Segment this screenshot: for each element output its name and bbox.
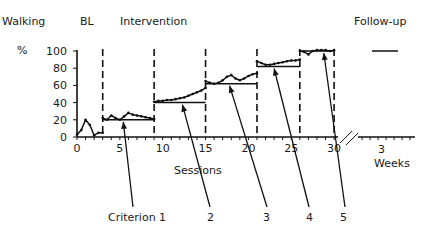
arrowhead-icon	[229, 86, 235, 94]
x-tick-label: 30	[327, 142, 341, 155]
data-point	[256, 72, 259, 75]
data-point	[260, 62, 263, 65]
data-point	[131, 113, 134, 116]
data-point	[174, 98, 177, 101]
data-point	[226, 76, 229, 79]
data-point	[251, 73, 254, 76]
data-point	[273, 63, 276, 66]
y-tick-label: 0	[60, 131, 67, 144]
data-point	[149, 117, 152, 120]
y-tick-label: 40	[53, 97, 67, 110]
data-point	[153, 118, 156, 121]
data-point	[303, 51, 306, 54]
y-tick-label: 80	[53, 62, 67, 75]
data-point	[187, 94, 190, 97]
x-tick-label: 5	[116, 142, 123, 155]
data-point	[97, 131, 100, 134]
data-point	[221, 79, 224, 82]
data-point	[329, 50, 332, 53]
arrowhead-icon	[121, 122, 127, 129]
data-point	[213, 82, 216, 85]
criterion-arrow	[230, 86, 267, 207]
data-point	[114, 117, 117, 120]
data-point	[200, 89, 203, 92]
x-tick-label: 10	[156, 142, 170, 155]
data-point	[290, 59, 293, 62]
data-point	[204, 80, 207, 83]
criterion-arrow	[123, 122, 133, 207]
data-series	[154, 88, 205, 102]
data-point	[230, 74, 233, 77]
data-point	[277, 62, 280, 65]
data-point	[204, 87, 207, 90]
y-tick-label: 100	[46, 45, 67, 58]
data-point	[140, 115, 143, 118]
data-point	[153, 100, 156, 103]
data-point	[76, 133, 79, 136]
data-point	[166, 99, 169, 102]
x-tick-label: 25	[284, 142, 298, 155]
data-point	[294, 59, 297, 62]
data-point	[333, 49, 336, 52]
data-point	[179, 97, 182, 100]
data-point	[110, 114, 113, 117]
data-point	[191, 93, 194, 96]
data-point	[144, 116, 147, 119]
data-point	[264, 63, 267, 66]
data-point	[256, 60, 259, 63]
data-point	[307, 53, 310, 56]
data-point	[136, 114, 139, 117]
data-point	[243, 77, 246, 80]
data-point	[196, 91, 199, 94]
data-point	[209, 82, 212, 85]
data-point	[183, 96, 186, 99]
arrowhead-icon	[322, 53, 328, 60]
data-point	[299, 50, 302, 53]
data-point	[269, 63, 272, 66]
data-point	[106, 119, 109, 122]
y-tick-label: 20	[53, 114, 67, 127]
data-point	[170, 99, 173, 102]
x-tick-label: 0	[74, 142, 81, 155]
data-point	[157, 100, 160, 103]
data-point	[101, 131, 104, 134]
data-point	[217, 82, 220, 85]
data-point	[119, 119, 122, 122]
data-point	[93, 134, 96, 137]
data-point	[239, 79, 242, 82]
data-point	[247, 75, 250, 78]
data-point	[320, 49, 323, 52]
data-point	[286, 60, 289, 63]
data-point	[123, 115, 126, 118]
data-point	[89, 124, 92, 127]
data-point	[311, 50, 314, 53]
data-point	[80, 129, 83, 132]
walking-chart: 020406080100051015202530	[0, 0, 422, 232]
data-point	[127, 112, 130, 115]
data-point	[316, 49, 319, 52]
x-tick-label: 15	[199, 142, 213, 155]
data-point	[324, 49, 327, 52]
y-tick-label: 60	[53, 79, 67, 92]
data-point	[299, 58, 302, 61]
data-point	[101, 117, 104, 120]
data-point	[161, 100, 164, 103]
data-point	[281, 61, 284, 64]
data-point	[84, 119, 87, 122]
data-point	[234, 77, 237, 80]
